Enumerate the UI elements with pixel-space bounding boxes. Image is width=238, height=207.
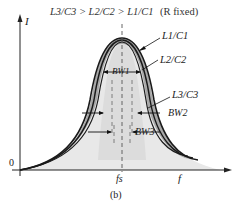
x-axis-label: f bbox=[178, 172, 181, 184]
header-condition: L3/C3 > L2/C2 > L1/C1 bbox=[50, 6, 153, 17]
bw1-label: BW1 bbox=[112, 66, 130, 76]
bw3-label: BW3 bbox=[135, 126, 154, 137]
curve-label-L1: L1/C1 bbox=[162, 30, 188, 41]
origin-label: 0 bbox=[9, 157, 14, 168]
center-frequency-label: fs bbox=[116, 173, 123, 184]
y-axis-arrow-icon bbox=[18, 14, 23, 22]
header-note: (R fixed) bbox=[160, 6, 198, 17]
curve-label-L3: L3/C3 bbox=[172, 89, 198, 100]
curve-label-L2: L2/C2 bbox=[160, 54, 186, 65]
figure-caption: (b) bbox=[110, 189, 122, 200]
x-axis-arrow-icon bbox=[224, 168, 232, 173]
y-axis-label: I bbox=[25, 15, 29, 27]
bw2-label: BW2 bbox=[168, 107, 187, 118]
